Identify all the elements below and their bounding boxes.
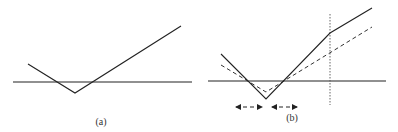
- figure-b-solid-kinked-line: [221, 8, 372, 99]
- figure-b: [208, 8, 386, 107]
- figure-a: [13, 26, 192, 93]
- figure-b-caption: (b): [286, 112, 298, 123]
- figure-a-caption: (a): [95, 116, 106, 127]
- figure-a-solid-v-line: [28, 26, 181, 93]
- figure-b-dashed-line: [221, 27, 372, 92]
- diagram-canvas: [0, 0, 398, 132]
